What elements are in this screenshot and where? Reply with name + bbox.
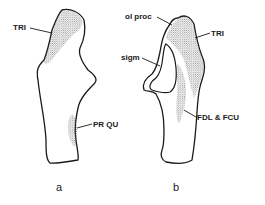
panel-label-a: a — [56, 181, 63, 193]
ulna-diagram: TRI PR QU a ol proc TRI sigm FDL & FCU b — [0, 0, 265, 205]
leader-prqu-a — [77, 124, 92, 128]
label-prqu-a: PR QU — [93, 120, 119, 129]
panel-b: ol proc TRI sigm FDL & FCU b — [121, 12, 239, 193]
leader-tri-b — [195, 33, 210, 38]
panel-label-b: b — [173, 181, 179, 193]
label-tri-a: TRI — [13, 23, 26, 32]
leader-tri-a — [30, 28, 52, 33]
leader-olproc-b — [157, 17, 172, 25]
label-fdl-fcu-b: FDL & FCU — [197, 113, 239, 122]
label-tri-b: TRI — [211, 29, 224, 38]
label-olproc-b: ol proc — [125, 12, 152, 21]
panel-a: TRI PR QU a — [13, 9, 119, 193]
sigmoid-notch-b — [150, 44, 176, 93]
label-sigm-b: sigm — [121, 53, 140, 62]
